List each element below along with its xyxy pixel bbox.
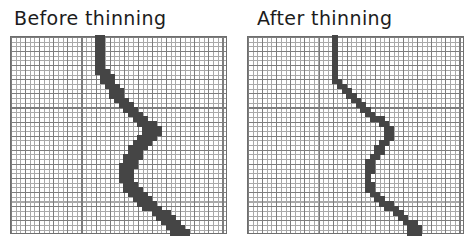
filled-cell-run xyxy=(407,229,422,236)
thinning-figure: Before thinning After thinning xyxy=(0,0,473,247)
filled-cell-run xyxy=(170,229,190,236)
after-thinning-title: After thinning xyxy=(257,7,393,29)
after-thinning-grid xyxy=(247,36,464,234)
before-thinning-title: Before thinning xyxy=(14,7,166,29)
before-thinning-grid xyxy=(10,36,227,234)
